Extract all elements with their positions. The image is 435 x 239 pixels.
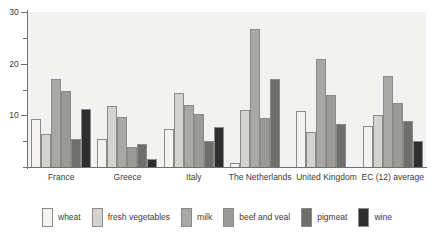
bar bbox=[316, 59, 326, 168]
category-label: Greece bbox=[94, 170, 160, 186]
legend-item[interactable]: wine bbox=[358, 208, 391, 227]
bar bbox=[107, 106, 117, 167]
bar bbox=[393, 103, 403, 167]
bar bbox=[240, 110, 250, 167]
bar bbox=[117, 117, 127, 167]
legend-item[interactable]: pigmeat bbox=[301, 208, 347, 227]
category-axis-labels: FranceGreeceItalyThe NetherlandsUnited K… bbox=[28, 170, 426, 186]
category-label: The Netherlands bbox=[227, 170, 293, 186]
bar bbox=[81, 109, 91, 167]
bar-group bbox=[28, 12, 94, 167]
legend-item[interactable]: milk bbox=[181, 208, 212, 227]
y-axis-tick bbox=[21, 115, 28, 116]
bar bbox=[97, 139, 107, 167]
legend-item[interactable]: beef and veal bbox=[223, 208, 290, 227]
legend-swatch-icon bbox=[301, 208, 312, 227]
bar bbox=[137, 144, 147, 167]
x-axis-line bbox=[27, 167, 427, 168]
bar bbox=[194, 114, 204, 167]
bar bbox=[326, 95, 336, 167]
bar bbox=[403, 121, 413, 168]
legend-label: beef and veal bbox=[239, 212, 290, 222]
bar-group bbox=[227, 12, 293, 167]
legend-swatch-icon bbox=[42, 208, 53, 227]
bar bbox=[164, 129, 174, 167]
legend-item[interactable]: wheat bbox=[42, 208, 81, 227]
bar bbox=[174, 93, 184, 167]
legend-label: wheat bbox=[58, 212, 81, 222]
legend-label: pigmeat bbox=[317, 212, 347, 222]
bar bbox=[336, 124, 346, 167]
bar bbox=[230, 163, 240, 167]
bar bbox=[147, 159, 157, 167]
bar-groups bbox=[28, 12, 426, 167]
y-axis-tick-label: 30 bbox=[0, 7, 19, 17]
legend-swatch-icon bbox=[223, 208, 234, 227]
category-label: United Kingdom bbox=[293, 170, 359, 186]
legend-swatch-icon bbox=[92, 208, 103, 227]
bar bbox=[204, 141, 214, 167]
bar bbox=[41, 134, 51, 167]
y-axis-tick bbox=[21, 12, 28, 13]
legend-label: milk bbox=[197, 212, 212, 222]
legend-label: wine bbox=[374, 212, 391, 222]
bar-chart: 102030 FranceGreeceItalyThe NetherlandsU… bbox=[0, 0, 435, 239]
y-axis-tick bbox=[21, 64, 28, 65]
y-axis-tick-label: 10 bbox=[0, 110, 19, 120]
y-axis-tick-label: 20 bbox=[0, 59, 19, 69]
bar bbox=[260, 118, 270, 167]
legend-swatch-icon bbox=[358, 208, 369, 227]
category-label: EC (12) average bbox=[360, 170, 426, 186]
bar bbox=[31, 119, 41, 167]
bar-group bbox=[161, 12, 227, 167]
bar bbox=[363, 126, 373, 167]
bar bbox=[71, 139, 81, 167]
bar bbox=[413, 141, 423, 167]
bar bbox=[51, 79, 61, 167]
legend-label: fresh vegetables bbox=[108, 212, 170, 222]
bar bbox=[61, 91, 71, 167]
category-label: Italy bbox=[161, 170, 227, 186]
bar bbox=[250, 29, 260, 167]
bar-group bbox=[94, 12, 160, 167]
bar bbox=[383, 76, 393, 167]
chart-legend: wheatfresh vegetablesmilkbeef and vealpi… bbox=[42, 204, 402, 230]
bar-group bbox=[360, 12, 426, 167]
bar bbox=[306, 132, 316, 167]
legend-swatch-icon bbox=[181, 208, 192, 227]
y-axis-tick bbox=[23, 167, 28, 168]
category-label: France bbox=[28, 170, 94, 186]
bar bbox=[184, 105, 194, 167]
legend-item[interactable]: fresh vegetables bbox=[92, 208, 170, 227]
bar bbox=[373, 115, 383, 167]
bar bbox=[214, 127, 224, 167]
bar bbox=[270, 79, 280, 167]
bar-group bbox=[293, 12, 359, 167]
bar bbox=[127, 147, 137, 167]
bar bbox=[296, 111, 306, 167]
